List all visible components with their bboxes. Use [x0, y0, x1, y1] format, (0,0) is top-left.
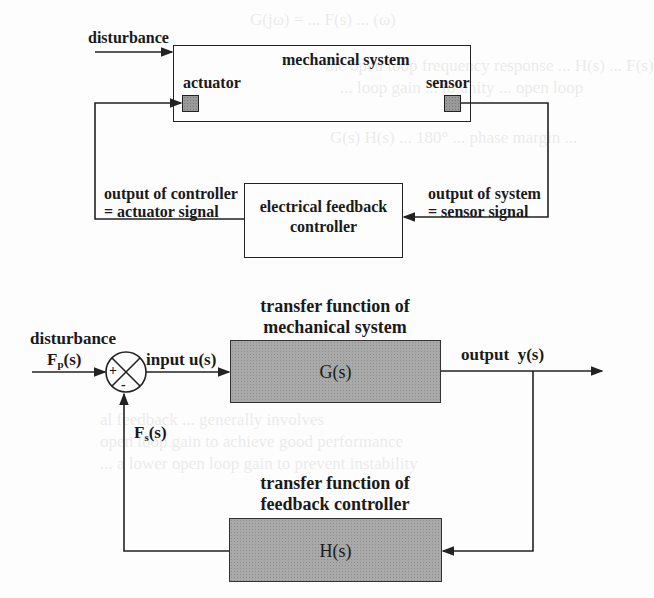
input-signal-label: input u(s): [146, 350, 216, 369]
mechanical-system-title: mechanical system: [282, 50, 410, 69]
plant-caption-line1: transfer function of: [260, 297, 410, 316]
mechanical-system-box: mechanical system actuator sensor: [173, 45, 471, 122]
electrical-feedback-controller-box: electrical feedback controller: [244, 183, 403, 258]
feedback-signal-label: Fs(s): [134, 423, 167, 447]
controller-caption-line2: feedback controller: [260, 495, 409, 514]
controller-block-h: H(s): [229, 518, 442, 582]
summing-junction: [106, 352, 146, 392]
sensor-icon: [444, 95, 461, 112]
block-disturbance-label: disturbance: [30, 329, 116, 348]
controller-caption-line1: transfer function of: [260, 474, 410, 493]
controller-output-annotation-line1: output of controller: [104, 184, 238, 203]
controller-box-line2: controller: [245, 218, 402, 236]
disturbance-label: disturbance: [88, 28, 169, 47]
plant-block-label: G(s): [231, 362, 440, 383]
plant-caption-line2: mechanical system: [263, 318, 406, 337]
sensor-label: sensor: [426, 73, 470, 92]
disturbance-signal-label: Fp(s): [47, 350, 81, 374]
controller-block-label: H(s): [230, 541, 441, 562]
controller-output-annotation-line2: = actuator signal: [104, 202, 219, 221]
system-output-annotation-line2: = sensor signal: [428, 202, 528, 221]
actuator-icon: [182, 95, 199, 112]
plant-block-g: G(s): [230, 340, 441, 403]
controller-box-line1: electrical feedback: [245, 198, 402, 216]
system-output-annotation-line1: output of system: [428, 184, 541, 203]
output-signal-label: output y(s): [461, 345, 544, 364]
actuator-label: actuator: [183, 73, 241, 92]
